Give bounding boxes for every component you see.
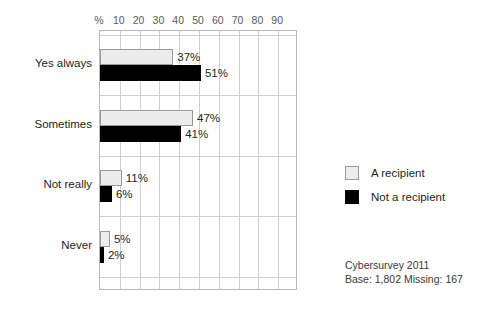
bar-value-label: 47% bbox=[193, 110, 220, 126]
bar-recipient bbox=[100, 49, 173, 65]
category-label: Never bbox=[2, 239, 92, 252]
legend-item: Not a recipient bbox=[345, 185, 485, 209]
gridline-vertical bbox=[258, 31, 259, 289]
gridline-horizontal bbox=[100, 156, 296, 157]
bar-value-label: 51% bbox=[201, 65, 228, 81]
gridline-horizontal bbox=[100, 35, 296, 36]
x-axis-ticks: %102030405060708090 bbox=[99, 14, 297, 28]
bar-value-label: 41% bbox=[181, 126, 208, 142]
category-label: Sometimes bbox=[2, 118, 92, 131]
legend-label: Not a recipient bbox=[371, 191, 445, 203]
bar-value-label: 37% bbox=[173, 49, 200, 65]
bar-chart: %102030405060708090 Yes alwaysSometimesN… bbox=[0, 0, 490, 315]
gridline-vertical bbox=[239, 31, 240, 289]
bar-value-label: 6% bbox=[112, 186, 133, 202]
gridline-horizontal bbox=[100, 95, 296, 96]
footer-base: Base: 1,802 Missing: 167 bbox=[345, 272, 490, 286]
x-tick-label: 90 bbox=[262, 14, 292, 27]
legend-swatch-dark bbox=[345, 190, 359, 204]
legend-item: A recipient bbox=[345, 161, 485, 185]
category-label: Not really bbox=[2, 178, 92, 191]
category-label: Yes always bbox=[2, 57, 92, 70]
category-axis-labels: Yes alwaysSometimesNot reallyNever bbox=[0, 30, 92, 290]
gridline-horizontal bbox=[100, 156, 296, 157]
footer-source: Cybersurvey 2011 bbox=[345, 258, 490, 272]
gridline-vertical bbox=[278, 31, 279, 289]
gridline-horizontal bbox=[100, 216, 296, 217]
bar-value-label: 5% bbox=[110, 231, 131, 247]
chart-footer: Cybersurvey 2011 Base: 1,802 Missing: 16… bbox=[345, 258, 490, 286]
legend-swatch-light bbox=[345, 166, 359, 180]
gridline-horizontal bbox=[100, 277, 296, 278]
gridline-horizontal bbox=[100, 95, 296, 96]
bar-non-recipient bbox=[100, 65, 201, 81]
bar-value-label: 2% bbox=[104, 247, 125, 263]
chart-legend: A recipientNot a recipient bbox=[345, 161, 485, 209]
bar-recipient bbox=[100, 170, 122, 186]
plot-area: 37%51%47%41%11%6%5%2% bbox=[99, 30, 297, 290]
bar-recipient bbox=[100, 110, 193, 126]
bar-non-recipient bbox=[100, 126, 181, 142]
bar-recipient bbox=[100, 231, 110, 247]
gridline-horizontal bbox=[100, 216, 296, 217]
bar-non-recipient bbox=[100, 186, 112, 202]
bar-value-label: 11% bbox=[122, 170, 148, 186]
legend-label: A recipient bbox=[371, 167, 425, 179]
